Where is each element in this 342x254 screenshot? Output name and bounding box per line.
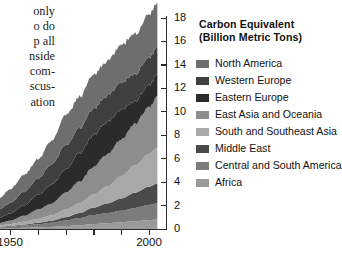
x-axis-tick [10, 230, 11, 235]
y-axis-tick [161, 18, 166, 19]
stacked-area-chart: 02468101214161819502000 [0, 0, 170, 254]
y-axis-tick-label: 8 [174, 129, 180, 140]
legend-title: Carbon Equivalent (Billion Metric Tons) [199, 18, 341, 43]
x-axis-tick [149, 230, 150, 235]
legend-swatch-icon [196, 77, 209, 85]
area-series-group [0, 0, 167, 254]
legend-item-label: North America [215, 58, 282, 69]
legend-item-label: South and Southeast Asia [215, 126, 337, 137]
legend-item: East Asia and Oceania [196, 107, 341, 123]
y-axis-tick [161, 41, 166, 42]
y-axis-tick-label: 18 [174, 12, 186, 23]
legend-swatch-icon [196, 128, 209, 136]
legend-item-label: Western Europe [215, 75, 291, 86]
x-axis-tick [38, 230, 39, 235]
x-axis-tick [121, 230, 122, 235]
legend-item-label: East Asia and Oceania [215, 109, 322, 120]
y-axis-tick-label: 0 [174, 223, 180, 234]
legend-title-line2: (Billion Metric Tons) [199, 31, 302, 43]
legend-item-label: Africa [215, 177, 242, 188]
y-axis-tick [161, 205, 166, 206]
y-axis-tick [161, 229, 166, 230]
legend-swatch-icon [196, 145, 209, 153]
legend-item: Middle East [196, 141, 341, 157]
legend-item-label: Central and South America [215, 160, 342, 171]
x-axis-tick-label: 2000 [136, 236, 162, 248]
y-axis-tick-label: 12 [174, 82, 186, 93]
y-axis-tick-label: 14 [174, 59, 186, 70]
legend-swatch-icon [196, 179, 209, 187]
legend-swatch-icon [196, 162, 209, 170]
legend-item-label: Middle East [215, 143, 270, 154]
legend-item: Western Europe [196, 73, 341, 89]
legend-item: South and Southeast Asia [196, 124, 341, 140]
y-axis-tick-label: 2 [174, 200, 180, 211]
legend-item: Central and South America [196, 158, 341, 174]
legend-title-line1: Carbon Equivalent [199, 18, 294, 30]
y-axis-tick-label: 10 [174, 106, 186, 117]
y-axis-tick [161, 88, 166, 89]
x-axis-tick-label: 1950 [0, 236, 23, 248]
plot-area [0, 0, 167, 254]
legend-item-label: Eastern Europe [215, 92, 289, 103]
y-axis-tick [161, 158, 166, 159]
x-axis-tick [66, 230, 67, 235]
y-axis-tick-label: 16 [174, 35, 186, 46]
legend-item: Eastern Europe [196, 90, 341, 106]
legend-item: Africa [196, 175, 341, 191]
chart-legend: Carbon Equivalent (Billion Metric Tons) … [196, 18, 341, 192]
y-axis-tick-label: 6 [174, 153, 180, 164]
y-axis-tick [161, 111, 166, 112]
y-axis-line [166, 16, 167, 230]
x-axis-line [0, 229, 167, 230]
y-axis-tick [161, 64, 166, 65]
x-axis-tick [93, 230, 94, 235]
legend-item: North America [196, 56, 341, 72]
legend-swatch-icon [196, 60, 209, 68]
y-axis-tick [161, 135, 166, 136]
y-axis-tick-label: 4 [174, 176, 180, 187]
legend-items: North AmericaWestern EuropeEastern Europ… [196, 56, 341, 191]
legend-swatch-icon [196, 111, 209, 119]
y-axis-tick [161, 182, 166, 183]
legend-swatch-icon [196, 94, 209, 102]
